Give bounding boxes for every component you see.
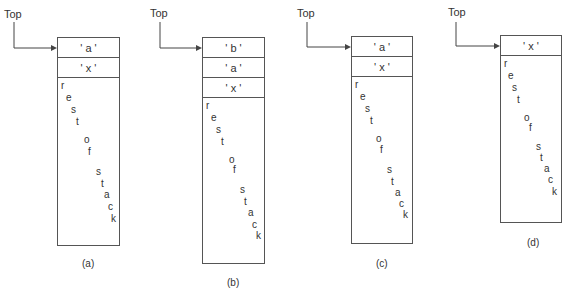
stack-cell: ' x ' xyxy=(352,57,412,77)
stack-cell: ' a ' xyxy=(58,38,119,58)
stack-c: ' a ' ' x ' r e s t o f s t a c k xyxy=(351,36,413,244)
caption-b: (b) xyxy=(227,277,239,288)
rest-letter: k xyxy=(111,214,116,224)
rest-letter: s xyxy=(512,83,517,93)
rest-letter: k xyxy=(403,210,408,220)
rest-letter: a xyxy=(104,190,110,200)
rest-letter: t xyxy=(76,117,79,127)
rest-letter: t xyxy=(540,153,543,163)
stack-cell: ' a ' xyxy=(203,58,264,78)
stack-a: ' a ' ' x ' r e s t o f s t a c k xyxy=(57,37,120,246)
rest-letter: f xyxy=(380,145,383,155)
rest-of-stack: r e s t o f s t a c k xyxy=(352,77,412,243)
rest-of-stack: r e s t o f s t a c k xyxy=(501,56,561,222)
rest-letter: t xyxy=(391,177,394,187)
top-pointer-arrow-b xyxy=(140,0,210,60)
rest-letter: s xyxy=(216,125,221,135)
rest-letter: c xyxy=(548,175,553,185)
rest-letter: t xyxy=(370,116,373,126)
rest-of-stack: r e s t o f s t a c k xyxy=(58,78,119,245)
stack-cell: ' x ' xyxy=(501,36,561,56)
rest-letter: r xyxy=(355,80,358,90)
rest-letter: k xyxy=(552,187,557,197)
rest-letter: a xyxy=(395,188,401,198)
stack-cell: ' x ' xyxy=(203,78,264,98)
rest-letter: r xyxy=(61,81,64,91)
rest-of-stack: r e s t o f s t a c k xyxy=(203,98,264,263)
rest-letter: c xyxy=(399,199,404,209)
rest-letter: t xyxy=(221,137,224,147)
rest-letter: o xyxy=(376,134,382,144)
rest-letter: e xyxy=(211,113,217,123)
rest-letter: f xyxy=(88,147,91,157)
stack-d: ' x ' r e s t o f s t a c k xyxy=(500,35,562,223)
caption-d: (d) xyxy=(527,237,539,248)
rest-letter: f xyxy=(233,165,236,175)
caption-c: (c) xyxy=(376,258,388,269)
rest-letter: e xyxy=(360,92,366,102)
rest-letter: a xyxy=(544,164,550,174)
rest-letter: s xyxy=(365,104,370,114)
rest-letter: f xyxy=(529,123,532,133)
rest-letter: o xyxy=(84,135,90,145)
rest-letter: r xyxy=(206,101,209,111)
rest-letter: s xyxy=(96,167,101,177)
rest-letter: t xyxy=(101,179,104,189)
stack-cell: ' a ' xyxy=(352,37,412,57)
rest-letter: s xyxy=(240,185,245,195)
rest-letter: s xyxy=(387,165,392,175)
rest-letter: t xyxy=(244,197,247,207)
rest-letter: e xyxy=(508,71,514,81)
top-pointer-arrow-c xyxy=(290,0,360,60)
rest-letter: e xyxy=(66,93,72,103)
stack-cell: ' b ' xyxy=(203,38,264,58)
stack-cell: ' x ' xyxy=(58,58,119,78)
rest-letter: s xyxy=(71,105,76,115)
stack-b: ' b ' ' a ' ' x ' r e s t o f s t a c k xyxy=(202,37,265,264)
rest-letter: k xyxy=(256,231,261,241)
rest-letter: s xyxy=(536,142,541,152)
caption-a: (a) xyxy=(82,258,94,269)
rest-letter: t xyxy=(517,95,520,105)
rest-letter: a xyxy=(248,208,254,218)
rest-letter: r xyxy=(504,59,507,69)
rest-letter: c xyxy=(108,202,113,212)
rest-letter: c xyxy=(252,220,257,230)
